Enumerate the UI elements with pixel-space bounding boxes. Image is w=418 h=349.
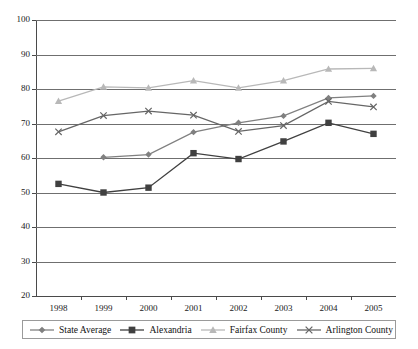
x-tick-mark	[171, 296, 172, 300]
legend-item-arlington-county[interactable]: Arlington County	[290, 324, 395, 336]
data-point-square-marker	[100, 189, 106, 195]
y-tick-label: 80	[0, 84, 30, 93]
data-point-diamond-marker	[370, 93, 376, 99]
x-tick-label: 2004	[309, 303, 349, 313]
x-tick-label: 2002	[219, 303, 259, 313]
data-point-diamond-marker	[325, 95, 331, 101]
x-tick-mark	[81, 296, 82, 300]
x-tick-mark	[351, 296, 352, 300]
legend-item-fairfax-county[interactable]: Fairfax County	[194, 324, 290, 336]
y-tick-label: 60	[0, 153, 30, 162]
legend-label: Arlington County	[326, 325, 393, 335]
x-tick-mark	[126, 296, 127, 300]
data-point-square-marker	[280, 138, 286, 144]
legend-item-alexandria[interactable]: Alexandria	[113, 324, 193, 336]
legend-label: Alexandria	[149, 325, 191, 335]
data-point-square-marker	[55, 181, 61, 187]
y-tick-label: 90	[0, 50, 30, 59]
y-tick-label: 100	[0, 15, 30, 24]
data-point-square-marker	[129, 326, 136, 333]
data-point-diamond-marker	[190, 129, 196, 135]
legend-label: State Average	[59, 325, 111, 335]
y-tick-label: 30	[0, 257, 30, 266]
plot-area	[36, 20, 396, 296]
y-tick-mark	[32, 296, 36, 297]
x-tick-mark	[216, 296, 217, 300]
data-point-diamond-marker	[235, 120, 241, 126]
legend-item-state-average[interactable]: State Average	[23, 324, 113, 336]
x-tick-label: 1999	[84, 303, 124, 313]
x-tick-label: 2001	[174, 303, 214, 313]
y-tick-label: 40	[0, 222, 30, 231]
x-tick-label: 1998	[39, 303, 79, 313]
line-chart: 2030405060708090100 19981999200020012002…	[0, 0, 418, 349]
legend-label: Fairfax County	[230, 325, 288, 335]
data-point-x-marker	[55, 129, 61, 135]
y-tick-label: 50	[0, 188, 30, 197]
data-point-diamond-marker	[39, 326, 46, 333]
data-point-square-marker	[190, 150, 196, 156]
x-tick-mark	[306, 296, 307, 300]
data-point-square-marker	[145, 184, 151, 190]
legend-marker-square-icon	[119, 324, 145, 336]
data-point-triangle-marker	[190, 77, 197, 83]
chart-legend: State Average Alexandria Fairfax County …	[22, 320, 396, 339]
x-tick-mark	[261, 296, 262, 300]
x-tick-label: 2003	[264, 303, 304, 313]
x-tick-label: 2000	[129, 303, 169, 313]
legend-marker-diamond-icon	[29, 324, 55, 336]
series-line-fairfax-county	[59, 68, 374, 101]
data-point-square-marker	[325, 120, 331, 126]
legend-marker-x-icon	[296, 324, 322, 336]
y-tick-label: 20	[0, 291, 30, 300]
data-point-diamond-marker	[145, 151, 151, 157]
data-point-diamond-marker	[280, 113, 286, 119]
x-tick-label: 2005	[354, 303, 394, 313]
data-point-square-marker	[370, 131, 376, 137]
series-line-state-average	[104, 96, 374, 157]
data-point-diamond-marker	[100, 154, 106, 160]
data-point-square-marker	[235, 156, 241, 162]
legend-marker-triangle-icon	[200, 324, 226, 336]
y-tick-label: 70	[0, 119, 30, 128]
series-layer	[36, 20, 396, 296]
